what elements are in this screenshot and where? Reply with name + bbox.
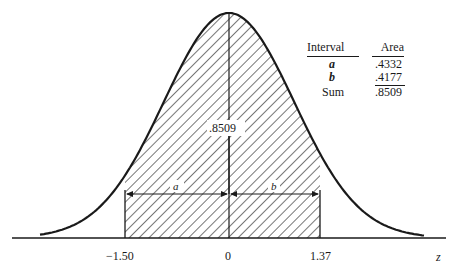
header-interval: Interval — [307, 40, 359, 57]
header-area: Area — [372, 40, 404, 57]
interval-b-label: b — [271, 179, 277, 193]
row-b-area: .4177 — [375, 70, 405, 86]
row-sum-area: .8509 — [375, 85, 402, 100]
center-area-label: .8509 — [209, 121, 236, 135]
tick-label-right: 1.37 — [310, 249, 331, 263]
row-b-interval: b — [329, 70, 335, 85]
axis-label-z: z — [436, 250, 441, 264]
interval-a-label: a — [173, 179, 179, 193]
row-sum-interval: Sum — [322, 85, 344, 100]
tick-label-left: −1.50 — [106, 249, 134, 263]
tick-label-center: 0 — [225, 249, 231, 263]
